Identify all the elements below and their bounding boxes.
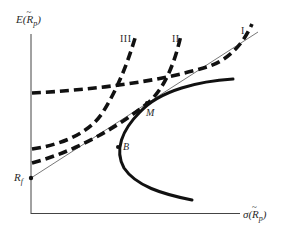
tilde-mark: ~ xyxy=(26,8,31,17)
y-axis-label: E(~Rp) xyxy=(16,14,41,28)
y-axis-label-var: ~R xyxy=(26,14,33,25)
m-label: M xyxy=(146,108,154,118)
rf-label-sub: f xyxy=(21,177,23,186)
b-label: B xyxy=(123,142,129,152)
curve-label-III: III xyxy=(120,34,132,44)
x-axis-label-prefix: σ( xyxy=(243,208,252,220)
tilde-mark: ~ xyxy=(252,203,257,212)
x-axis-label: σ(~Rp) xyxy=(243,209,267,223)
curve-label-II: II xyxy=(172,34,180,44)
x-axis-label-var: ~R xyxy=(252,209,259,220)
b-point xyxy=(116,145,120,149)
capital-market-diagram: E(~Rp) σ(~Rp) Rf M B I II III xyxy=(0,0,286,231)
y-axis-label-prefix: E( xyxy=(16,13,26,25)
y-axis-label-suffix: ) xyxy=(37,13,41,25)
rf-point xyxy=(29,176,33,180)
indifference-curve-I xyxy=(32,24,252,93)
curve-label-I: I xyxy=(241,26,245,36)
x-axis-label-suffix: ) xyxy=(263,208,267,220)
rf-label: Rf xyxy=(14,172,23,186)
rf-label-letter: R xyxy=(14,171,21,183)
m-point xyxy=(145,101,149,105)
efficient-frontier-curve xyxy=(120,79,233,200)
